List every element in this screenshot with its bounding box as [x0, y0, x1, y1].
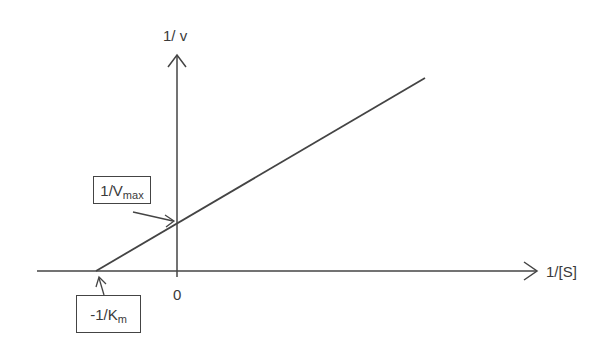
- x-intercept-label-sub: m: [118, 313, 127, 325]
- y-intercept-annotation: 1/Vmax: [93, 176, 151, 204]
- y-axis-label: 1/ v: [163, 27, 187, 44]
- x-axis-label: 1/[S]: [546, 263, 577, 280]
- origin-tick-label: 0: [173, 286, 181, 303]
- x-intercept-label-main: -1/K: [90, 306, 118, 323]
- x-intercept-annotation: -1/Km: [76, 295, 141, 333]
- plot-line: [96, 78, 425, 271]
- y-intercept-label-sub: max: [123, 189, 144, 201]
- y-intercept-label-main: 1/V: [100, 182, 123, 199]
